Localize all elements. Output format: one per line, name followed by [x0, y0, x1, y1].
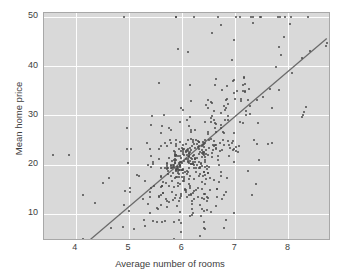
scatter-point — [248, 88, 250, 90]
scatter-point — [198, 153, 200, 155]
scatter-point — [123, 204, 125, 206]
scatter-point — [158, 158, 160, 160]
scatter-point — [161, 125, 163, 127]
scatter-point — [231, 59, 233, 61]
scatter-point — [301, 116, 303, 118]
scatter-point — [146, 142, 148, 144]
scatter-point — [193, 198, 195, 200]
scatter-point — [152, 161, 154, 163]
scatter-point — [257, 122, 259, 124]
scatter-point — [225, 191, 227, 193]
scatter-point — [147, 203, 149, 205]
scatter-point — [175, 139, 177, 141]
scatter-point — [158, 82, 160, 84]
scatter-point — [234, 98, 236, 100]
scatter-point — [236, 90, 238, 92]
scatter-point — [180, 195, 182, 197]
scatter-point — [224, 109, 226, 111]
scatter-point — [180, 157, 182, 159]
scatter-point — [197, 196, 199, 198]
scatter-point — [225, 219, 227, 221]
scatter-point — [212, 149, 214, 151]
scatter-point — [207, 172, 209, 174]
scatter-point — [192, 192, 194, 194]
scatter-point — [179, 197, 181, 199]
scatter-point — [206, 200, 208, 202]
scatter-point — [129, 191, 131, 193]
scatter-point — [226, 85, 228, 87]
scatter-point — [269, 88, 271, 90]
scatter-point — [196, 157, 198, 159]
scatter-point — [191, 203, 193, 205]
scatter-point — [170, 175, 172, 177]
scatter-point — [223, 132, 225, 134]
scatter-point — [216, 188, 218, 190]
scatter-point — [215, 131, 217, 133]
scatter-point — [205, 178, 207, 180]
scatter-point — [187, 139, 189, 141]
scatter-point — [220, 112, 222, 114]
scatter-point — [199, 204, 201, 206]
scatter-point — [191, 158, 193, 160]
scatter-point — [152, 220, 154, 222]
scatter-point — [213, 179, 215, 181]
scatter-point — [219, 142, 221, 144]
scatter-point — [227, 115, 229, 117]
scatter-point — [177, 185, 179, 187]
scatter-point — [130, 148, 132, 150]
scatter-point — [201, 181, 203, 183]
scatter-point — [144, 225, 146, 227]
scatter-point — [245, 114, 247, 116]
scatter-point — [188, 183, 190, 185]
scatter-point — [221, 198, 223, 200]
scatter-point — [126, 148, 128, 150]
scatter-point — [209, 189, 211, 191]
scatter-point — [68, 154, 70, 156]
scatter-point — [289, 23, 291, 25]
scatter-point — [307, 16, 309, 18]
scatter-point — [178, 219, 180, 221]
scatter-point — [233, 212, 235, 214]
scatter-point — [160, 145, 162, 147]
scatter-point — [233, 92, 235, 94]
scatter-point — [152, 163, 154, 165]
scatter-point — [278, 89, 280, 91]
scatter-point — [239, 121, 241, 123]
scatter-point — [204, 121, 206, 123]
scatter-point — [179, 211, 181, 213]
scatter-point — [189, 215, 191, 217]
scatter-point — [138, 175, 140, 177]
scatter-point — [203, 171, 205, 173]
scatter-point — [309, 50, 311, 52]
plot-area — [43, 12, 330, 240]
scatter-point — [220, 171, 222, 173]
scatter-point — [191, 208, 193, 210]
scatter-point — [176, 176, 178, 178]
scatter-point — [329, 179, 330, 181]
scatter-point — [223, 194, 225, 196]
scatter-point — [214, 127, 216, 129]
scatter-point — [149, 191, 151, 193]
scatter-point — [231, 142, 233, 144]
scatter-point — [283, 36, 285, 38]
scatter-point — [150, 155, 152, 157]
scatter-point — [164, 220, 166, 222]
scatter-point — [301, 57, 303, 59]
scatter-point — [258, 159, 260, 161]
scatter-point — [160, 132, 162, 134]
scatter-point — [178, 176, 180, 178]
scatter-point — [207, 99, 209, 101]
scatter-point — [187, 160, 189, 162]
scatter-point — [217, 16, 219, 18]
scatter-point — [205, 104, 207, 106]
scatter-point — [166, 168, 168, 170]
scatter-point — [204, 228, 206, 230]
scatter-point — [160, 167, 162, 169]
scatter-point — [267, 143, 269, 145]
scatter-point — [190, 194, 192, 196]
scatter-point — [122, 226, 124, 228]
scatter-point — [166, 206, 168, 208]
scatter-point — [305, 106, 307, 108]
scatter-point — [94, 202, 96, 204]
scatter-point — [153, 185, 155, 187]
